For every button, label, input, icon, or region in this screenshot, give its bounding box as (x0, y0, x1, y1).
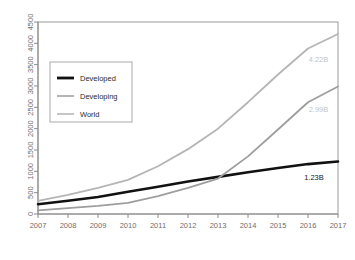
chart-container: 0500100015002000250030003500400045002007… (0, 0, 355, 260)
x-axis-tick-label: 2010 (120, 221, 137, 230)
y-axis-tick-label: 1500 (26, 142, 35, 159)
line-chart: 0500100015002000250030003500400045002007… (0, 0, 355, 260)
data-label-4-22B: 4.22B (309, 55, 329, 64)
y-axis-tick-label: 0 (26, 212, 35, 216)
x-axis-tick-label: 2015 (270, 221, 287, 230)
series-line-developed (38, 162, 338, 205)
x-axis-tick-label: 2016 (300, 221, 317, 230)
y-axis-tick-label: 2500 (26, 99, 35, 116)
x-axis-tick-label: 2008 (60, 221, 77, 230)
x-axis-tick-label: 2013 (210, 221, 227, 230)
legend-label-developed: Developed (80, 74, 116, 83)
legend-label-developing: Developing (80, 92, 118, 101)
y-axis-tick-label: 4500 (26, 14, 35, 31)
y-axis-tick-label: 500 (26, 186, 35, 199)
x-axis-tick-label: 2012 (180, 221, 197, 230)
x-axis-tick-label: 2011 (150, 221, 166, 230)
data-label-1-23B: 1.23B (304, 173, 324, 182)
y-axis-tick-label: 1000 (26, 163, 35, 180)
y-axis-tick-label: 2000 (26, 120, 35, 137)
x-axis-tick-label: 2009 (90, 221, 107, 230)
legend-label-world: World (80, 110, 99, 119)
data-label-2-99B: 2.99B (309, 105, 329, 114)
x-axis-tick-label: 2017 (330, 221, 347, 230)
y-axis-tick-label: 3500 (26, 56, 35, 73)
x-axis-tick-label: 2007 (30, 221, 47, 230)
y-axis-tick-label: 3000 (26, 78, 35, 95)
x-axis-tick-label: 2014 (240, 221, 257, 230)
y-axis-tick-label: 4000 (26, 35, 35, 52)
